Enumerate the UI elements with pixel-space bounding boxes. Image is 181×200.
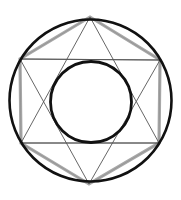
hexagram-circle-diagram bbox=[0, 0, 181, 200]
background bbox=[0, 0, 181, 200]
